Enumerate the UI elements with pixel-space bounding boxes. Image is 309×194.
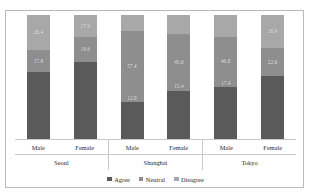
bar-slot: 28.4 17.8: [15, 15, 62, 139]
bar-segment-label-holder-disagree: 15.4: [167, 83, 190, 91]
legend-label: Disagree: [181, 176, 204, 183]
bar-segment-neutral: 22.6: [261, 48, 284, 76]
bar-segment-label-disagree: 28.4: [34, 30, 43, 35]
bar-segment-label-neutral: 19.6: [80, 47, 89, 52]
bar-segment-label-disagree: 26.9: [268, 29, 277, 34]
axis-label-male: Male: [109, 140, 156, 154]
axis-label-female: Female: [156, 140, 203, 154]
bar-segment-disagree: [214, 15, 237, 37]
bar-group-shanghai: 57.4 12.9 45.6: [109, 15, 203, 139]
stacked-bar-seoul-female[interactable]: 17.9 19.6: [74, 15, 97, 139]
bar-segment-agree: [121, 102, 144, 139]
bar-segment-agree: [27, 72, 50, 139]
bar-slot: 45.6 15.4: [156, 15, 203, 139]
legend-item-disagree[interactable]: Disagree: [174, 176, 204, 183]
bar-segment-agree: [74, 62, 97, 140]
chart-frame: 28.4 17.8 17.9 19.6: [5, 10, 304, 188]
bar-segment-agree: [214, 87, 237, 139]
plot-area: 28.4 17.8 17.9 19.6: [15, 15, 296, 139]
bar-segment-neutral: 19.6: [74, 37, 97, 61]
legend-item-neutral[interactable]: Neutral: [139, 176, 165, 183]
bar-slot: 17.9 19.6: [62, 15, 109, 139]
chart-legend: Agree Neutral Disagree: [6, 173, 305, 185]
legend-swatch-icon: [107, 177, 112, 182]
axis-group-tokyo: Male Female Tokyo: [203, 140, 296, 170]
legend-item-agree[interactable]: Agree: [107, 176, 130, 183]
bar-slot: 26.9 22.6: [249, 15, 296, 139]
bar-segment-label-disagree: 12.9: [127, 96, 136, 101]
legend-swatch-icon: [139, 177, 144, 182]
axis-label-female: Female: [62, 140, 109, 154]
bar-group-seoul: 28.4 17.8 17.9 19.6: [15, 15, 109, 139]
bar-segment-label-neutral: 22.6: [268, 60, 277, 65]
bar-segment-disagree: 28.4: [27, 15, 50, 50]
bar-segment-disagree: [121, 15, 144, 31]
stacked-bar-tokyo-female[interactable]: 26.9 22.6: [261, 15, 284, 139]
bar-segment-label-holder-disagree: 17.4: [214, 79, 237, 87]
bar-segment-agree: [167, 91, 190, 139]
bar-segment-neutral: 57.4: [121, 31, 144, 102]
bar-segment-disagree: 26.9: [261, 15, 284, 48]
legend-swatch-icon: [174, 177, 179, 182]
stacked-bar-seoul-male[interactable]: 28.4 17.8: [27, 15, 50, 139]
bar-segment-neutral: 17.8: [27, 50, 50, 72]
stacked-bar-shanghai-female[interactable]: 45.6 15.4: [167, 15, 190, 139]
axis-label-city: Shanghai: [109, 155, 202, 170]
legend-label: Neutral: [146, 176, 165, 183]
bar-slot: 57.4 12.9: [109, 15, 156, 139]
bar-segment-label-disagree: 17.9: [80, 24, 89, 29]
bar-group-tokyo: 40.8 17.4 26.9 22.6: [202, 15, 296, 139]
bar-segment-label-neutral: 45.6: [174, 60, 183, 65]
axis-group-seoul: Male Female Seoul: [15, 140, 109, 170]
axis-gender-row: Male Female: [15, 140, 108, 155]
axis-label-female: Female: [250, 140, 297, 154]
axis-label-male: Male: [15, 140, 62, 154]
axis-label-male: Male: [203, 140, 250, 154]
bar-segment-label-holder-disagree: 12.9: [121, 94, 144, 102]
category-axis: Male Female Seoul Male Female Shanghai M…: [15, 139, 296, 170]
bar-segment-label-disagree: 15.4: [174, 84, 183, 89]
bar-segment-label-neutral: 57.4: [127, 64, 136, 69]
stacked-bar-chart: 28.4 17.8 17.9 19.6: [0, 0, 309, 194]
bar-segment-label-neutral: 17.8: [34, 59, 43, 64]
axis-group-shanghai: Male Female Shanghai: [109, 140, 203, 170]
axis-label-city: Tokyo: [203, 155, 296, 170]
bar-segment-disagree: 17.9: [74, 15, 97, 37]
legend-label: Agree: [114, 176, 130, 183]
stacked-bar-shanghai-male[interactable]: 57.4 12.9: [121, 15, 144, 139]
stacked-bar-tokyo-male[interactable]: 40.8 17.4: [214, 15, 237, 139]
bar-slot: 40.8 17.4: [202, 15, 249, 139]
axis-gender-row: Male Female: [203, 140, 296, 155]
bar-segment-label-neutral: 40.8: [221, 59, 230, 64]
axis-gender-row: Male Female: [109, 140, 202, 155]
bar-segment-disagree: [167, 15, 190, 34]
bar-segment-label-disagree: 17.4: [221, 81, 230, 86]
bar-segment-agree: [261, 76, 284, 139]
axis-label-city: Seoul: [15, 155, 108, 170]
